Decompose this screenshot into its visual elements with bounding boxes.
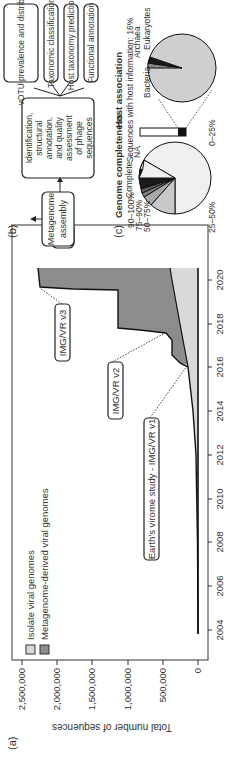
legend: Isolate viral genomes Metagenome-derived… — [25, 488, 50, 654]
y-tick-500k: 500,000 — [157, 668, 168, 702]
x-tick-2016: 2016 — [214, 356, 225, 377]
host-association-title: Host association — [113, 52, 124, 128]
panel-b-label: (b) — [6, 225, 18, 238]
x-tick-2010: 2010 — [214, 488, 225, 509]
svg-text:Identification,: Identification, — [24, 113, 34, 164]
x-tick-2006: 2006 — [214, 575, 225, 596]
annotation-v2: IMG/VR v2 — [110, 368, 121, 414]
svg-text:structural: structural — [34, 120, 44, 155]
svg-text:vOTU prevalence and distributi: vOTU prevalence and distribution — [16, 0, 26, 105]
host-info-bar-filled — [178, 128, 186, 136]
svg-text:sequences: sequences — [84, 117, 94, 159]
svg-text:25–50%: 25–50% — [207, 201, 217, 233]
svg-text:annotation,: annotation, — [44, 117, 54, 160]
eukaryotes-label: Eukaryotes — [142, 7, 152, 50]
legend-label-metagenome: Metagenome-derived viral genomes — [39, 488, 50, 640]
flowchart: Metagenome assembly Identification, stru… — [4, 0, 98, 248]
svg-text:Taxonomic classification: Taxonomic classification — [46, 0, 56, 88]
y-axis-label: Total number of sequences — [52, 722, 172, 733]
annotation-v1: Earth's virome study - IMG/VR v1 — [146, 419, 157, 560]
y-tick-1m: 1,000,000 — [122, 668, 133, 710]
x-tick-2012: 2012 — [214, 444, 225, 465]
svg-text:Host taxonomy prediction: Host taxonomy prediction — [66, 0, 76, 90]
svg-text:assembly: assembly — [58, 199, 68, 238]
y-tick-0: 0 — [192, 668, 203, 673]
panel-a-label: (a) — [6, 737, 18, 750]
genome-completeness-title: Genome completeness — [113, 114, 124, 218]
legend-swatch-metagenome — [40, 645, 49, 654]
svg-text:Functional annotation: Functional annotation — [86, 3, 96, 83]
panel-c-label: (c) — [112, 225, 124, 238]
y-axis: 0 500,000 1,000,000 1,500,000 2,000,000 … — [16, 660, 203, 710]
x-tick-2004: 2004 — [214, 619, 225, 640]
x-axis: 2004 2006 2008 2010 2012 2014 2016 2018 … — [208, 269, 225, 640]
svg-text:Complete: Complete — [124, 161, 134, 198]
svg-text:0–25%: 0–25% — [207, 119, 217, 146]
figure: (a) Total number of sequences 0 500,000 … — [0, 0, 230, 758]
legend-label-isolate: Isolate viral genomes — [25, 550, 36, 640]
annotation-v3: IMG/VR v3 — [57, 310, 68, 356]
host-association-pie — [148, 34, 216, 102]
svg-text:assessment: assessment — [64, 114, 74, 160]
svg-text:Metagenome: Metagenome — [46, 193, 56, 246]
y-tick-2.5m: 2,500,000 — [16, 668, 27, 710]
x-tick-2014: 2014 — [214, 400, 225, 421]
x-tick-2020: 2020 — [214, 269, 225, 290]
legend-swatch-isolate — [26, 645, 35, 654]
y-tick-1.5m: 1,500,000 — [86, 668, 97, 710]
archaea-label: Archaea — [132, 26, 142, 58]
svg-text:of phage: of phage — [74, 121, 84, 155]
bacteria-label: Bacteria — [142, 67, 152, 98]
svg-text:and quality: and quality — [54, 117, 64, 159]
x-tick-2018: 2018 — [214, 313, 225, 334]
y-tick-2m: 2,000,000 — [51, 668, 62, 710]
x-tick-2008: 2008 — [214, 531, 225, 552]
